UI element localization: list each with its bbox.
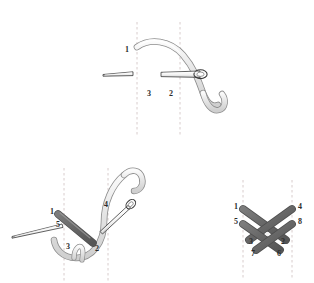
label-2-top: 2 — [169, 89, 173, 98]
sewing-needle-icon — [103, 72, 133, 76]
label-7-cross: 7 — [251, 249, 255, 258]
label-8-cross: 8 — [298, 217, 302, 226]
label-5-cross: 5 — [234, 217, 238, 226]
label-1-top: 1 — [125, 45, 129, 54]
label-3-top: 3 — [147, 89, 151, 98]
stitch-interlace-gap — [265, 232, 269, 236]
label-2-bottom-left: 2 — [95, 244, 99, 253]
label-4-bottom-left: 4 — [104, 200, 108, 209]
label-4-cross: 4 — [298, 202, 302, 211]
thread-tail-icon — [203, 93, 225, 110]
sewing-needle-eye-icon — [161, 70, 207, 79]
diagonal-stitch-icon — [58, 213, 93, 243]
label-3-bottom-left: 3 — [66, 242, 70, 251]
label-5-bottom-left: 5 — [56, 220, 60, 229]
panel-bottom-left: 1 5 3 2 4 — [12, 168, 142, 283]
label-3-cross: 3 — [249, 237, 253, 246]
thread-upper-curl-icon — [124, 171, 142, 191]
embroidery-steps-diagram: 1 3 2 — [0, 0, 314, 283]
label-1-bottom-left: 1 — [50, 207, 54, 216]
label-6-cross: 6 — [277, 249, 281, 258]
illustration-canvas: 1 3 2 — [0, 0, 314, 283]
panel-bottom-right: 1 4 5 8 3 2 7 6 — [234, 180, 302, 278]
label-2-cross: 2 — [281, 237, 285, 246]
panel-top: 1 3 2 — [103, 22, 225, 136]
label-1-cross: 1 — [234, 202, 238, 211]
